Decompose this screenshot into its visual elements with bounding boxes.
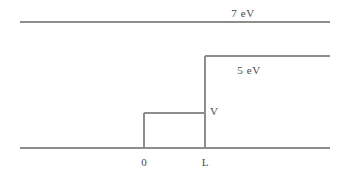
tick-label-width: L — [202, 156, 209, 168]
label-step-energy: 5 eV — [237, 64, 260, 76]
potential-energy-diagram: 7 eV 5 eV V 0 L — [0, 0, 348, 173]
tick-label-origin: 0 — [141, 156, 147, 168]
potential-diagram-svg: 7 eV 5 eV V 0 L — [0, 0, 348, 173]
label-top-energy: 7 eV — [231, 7, 254, 19]
label-barrier-height: V — [210, 105, 219, 117]
